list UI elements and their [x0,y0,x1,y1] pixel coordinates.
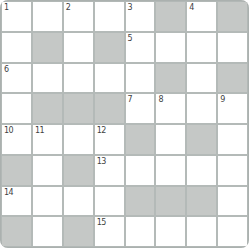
crossword-grid: 123456789101112131415 [0,0,249,248]
letter-cell[interactable] [218,156,247,185]
letter-cell[interactable]: 6 [2,64,31,93]
letter-cell[interactable]: 14 [2,187,31,216]
letter-cell[interactable] [156,217,185,246]
letter-cell[interactable] [64,64,93,93]
letter-cell[interactable] [64,33,93,62]
blocked-cell [95,94,124,123]
clue-number: 4 [189,3,194,12]
letter-cell[interactable] [64,187,93,216]
blocked-cell [187,125,216,154]
letter-cell[interactable] [218,217,247,246]
letter-cell[interactable] [218,125,247,154]
blocked-cell [156,187,185,216]
letter-cell[interactable] [126,156,155,185]
letter-cell[interactable] [126,217,155,246]
letter-cell[interactable] [33,2,62,31]
letter-cell[interactable]: 5 [126,33,155,62]
letter-cell[interactable] [2,33,31,62]
letter-cell[interactable] [95,187,124,216]
blocked-cell [156,2,185,31]
letter-cell[interactable]: 12 [95,125,124,154]
letter-cell[interactable]: 13 [95,156,124,185]
blocked-cell [218,2,247,31]
clue-number: 9 [220,95,225,104]
letter-cell[interactable] [218,33,247,62]
letter-cell[interactable] [126,64,155,93]
blocked-cell [2,156,31,185]
blocked-cell [64,217,93,246]
letter-cell[interactable] [156,125,185,154]
letter-cell[interactable] [187,156,216,185]
letter-cell[interactable] [2,94,31,123]
letter-cell[interactable]: 10 [2,125,31,154]
clue-number: 6 [4,65,9,74]
letter-cell[interactable]: 2 [64,2,93,31]
letter-cell[interactable] [33,187,62,216]
clue-number: 5 [128,34,133,43]
letter-cell[interactable] [156,33,185,62]
blocked-cell [95,33,124,62]
letter-cell[interactable]: 9 [218,94,247,123]
letter-cell[interactable] [95,2,124,31]
letter-cell[interactable] [187,217,216,246]
letter-cell[interactable] [64,125,93,154]
letter-cell[interactable] [156,156,185,185]
blocked-cell [156,64,185,93]
clue-number: 14 [4,188,13,197]
blocked-cell [218,64,247,93]
letter-cell[interactable] [187,94,216,123]
clue-number: 7 [128,95,133,104]
clue-number: 1 [4,3,9,12]
letter-cell[interactable]: 1 [2,2,31,31]
letter-cell[interactable]: 3 [126,2,155,31]
letter-cell[interactable] [218,187,247,216]
clue-number: 3 [128,3,133,12]
letter-cell[interactable] [33,64,62,93]
blocked-cell [64,156,93,185]
blocked-cell [33,94,62,123]
clue-number: 12 [97,126,106,135]
letter-cell[interactable]: 7 [126,94,155,123]
blocked-cell [187,187,216,216]
clue-number: 15 [97,218,106,227]
blocked-cell [126,187,155,216]
letter-cell[interactable] [33,217,62,246]
letter-cell[interactable]: 11 [33,125,62,154]
letter-cell[interactable] [187,33,216,62]
clue-number: 8 [158,95,163,104]
clue-number: 10 [4,126,13,135]
letter-cell[interactable] [187,64,216,93]
clue-number: 13 [97,157,106,166]
blocked-cell [64,94,93,123]
crossword-widget: 123456789101112131415 [0,0,249,248]
clue-number: 11 [35,126,44,135]
blocked-cell [126,125,155,154]
blocked-cell [33,33,62,62]
letter-cell[interactable]: 8 [156,94,185,123]
letter-cell[interactable]: 4 [187,2,216,31]
blocked-cell [2,217,31,246]
letter-cell[interactable] [95,64,124,93]
clue-number: 2 [66,3,71,12]
letter-cell[interactable]: 15 [95,217,124,246]
letter-cell[interactable] [33,156,62,185]
